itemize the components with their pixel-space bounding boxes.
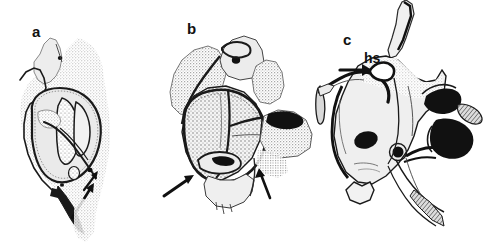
panel-c-label: c (343, 32, 351, 47)
panel-c-hatched-sliver (457, 104, 482, 124)
panel-b-label: b (187, 21, 196, 36)
arrow-b-left (164, 175, 194, 196)
panel-a-drawing (0, 0, 164, 248)
panel-b-drawing (160, 0, 330, 248)
panel-a-label: a (32, 24, 40, 39)
panel-c-right-dark-mass (428, 118, 474, 158)
hs-label: hs (364, 51, 380, 65)
panel-b-lower-opening (198, 152, 241, 174)
panel-c-bottom-process (346, 182, 374, 204)
panel-b: b (160, 0, 330, 248)
panel-c-left-extension (318, 84, 334, 96)
panel-c-upper-projection (388, 0, 414, 58)
panel-b-right-upper-lobe (252, 60, 284, 104)
panel-a: a (0, 0, 164, 248)
panel-c-connector-band (404, 147, 438, 162)
panel-c: c hs (318, 0, 488, 248)
panel-b-bottom-lobe (204, 174, 254, 214)
panel-c-lower-wedge (410, 190, 444, 226)
figure-container: a (0, 0, 488, 248)
